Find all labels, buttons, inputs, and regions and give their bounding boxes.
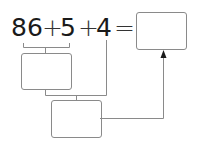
bracket-86-5 <box>24 43 70 48</box>
line-to-answer <box>100 57 164 119</box>
bracket-step1-4 <box>46 89 107 96</box>
connector-lines <box>0 0 198 148</box>
number-bond-diagram: 86 + 5 + 4 = <box>0 0 198 148</box>
arrow-up-icon <box>161 50 167 58</box>
